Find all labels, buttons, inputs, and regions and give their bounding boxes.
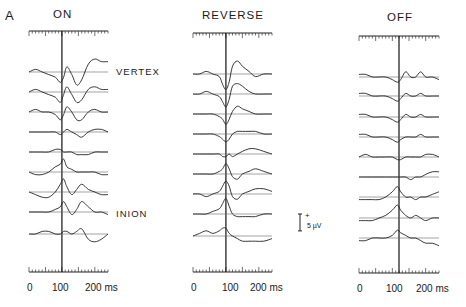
figure-canvas: A ON REVERSE OFF VERTEX INION + 5 µV 0 1… xyxy=(0,0,466,307)
x-tick-reverse-200: 200 ms xyxy=(250,282,283,293)
x-tick-on-100: 100 xyxy=(52,282,69,293)
x-tick-off-200: 200 ms xyxy=(416,283,449,294)
trace-reverse xyxy=(193,131,272,142)
trace-reverse xyxy=(193,84,272,107)
x-tick-reverse-0: 0 xyxy=(191,282,197,293)
x-tick-off-0: 0 xyxy=(357,283,363,294)
trace-on xyxy=(29,159,108,175)
trace-on xyxy=(29,129,108,137)
trace-on xyxy=(29,87,108,103)
trace-on xyxy=(29,179,108,198)
x-tick-on-200: 200 ms xyxy=(85,282,118,293)
x-tick-on-0: 0 xyxy=(27,282,33,293)
trace-on xyxy=(29,228,108,241)
x-tick-reverse-100: 100 xyxy=(222,282,239,293)
trace-reverse xyxy=(193,149,272,157)
trace-on xyxy=(29,107,108,121)
trace-reverse xyxy=(193,181,272,199)
trace-reverse xyxy=(193,164,272,180)
trace-on xyxy=(29,202,108,215)
scale-bar-label: 5 µV xyxy=(307,222,322,229)
trace-reverse xyxy=(193,106,272,124)
evoked-potential-plot xyxy=(0,0,466,307)
trace-reverse xyxy=(193,228,272,242)
x-tick-off-100: 100 xyxy=(386,283,403,294)
scale-bar-plus: + xyxy=(305,211,310,220)
trace-reverse xyxy=(193,61,272,90)
trace-on xyxy=(29,149,108,155)
